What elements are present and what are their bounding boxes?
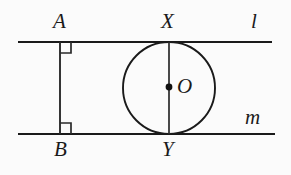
label-center-o: O: [177, 76, 192, 97]
label-line-l: l: [251, 11, 257, 32]
label-point-y: Y: [162, 139, 174, 160]
label-point-a: A: [53, 11, 66, 32]
geometry-figure: A X l O m B Y: [0, 0, 291, 175]
label-point-b: B: [54, 139, 67, 160]
right-angle-mark-a: [60, 42, 71, 53]
label-point-x: X: [161, 11, 174, 32]
center-point-o: [166, 84, 173, 91]
label-line-m: m: [245, 107, 260, 128]
geometry-canvas: [0, 0, 291, 175]
right-angle-mark-b: [60, 123, 71, 134]
